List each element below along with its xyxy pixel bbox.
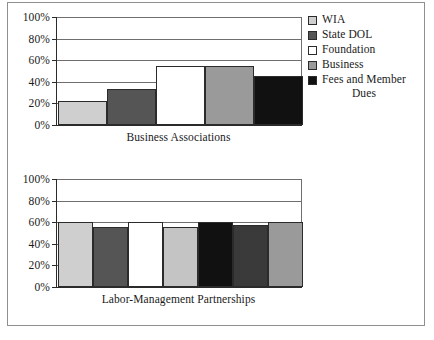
legend-top: WIAState DOLFoundationBusinessFees and M… [308,13,426,102]
y-tick-60% [52,222,57,223]
bar-fee-for-service [93,227,128,287]
y-tick-label-0%: 0% [34,281,50,293]
legend-item-label: Foundation [322,43,375,57]
legend-swatch-icon [308,46,317,55]
y-tick-label-100%: 100% [23,173,50,185]
legend-item-label: State DOL [322,28,372,42]
legend-item: WIA [308,13,426,27]
bar-incumbent-worker [233,225,268,287]
legend-item: Foundation [308,43,426,57]
plot-area-bottom: 0%20%40%60%80%100% [56,179,302,288]
y-tick-40% [52,244,57,245]
y-tick-label-80%: 80% [29,195,50,207]
legend-item: Fees and MemberDues [308,73,426,100]
y-tick-40% [52,82,57,83]
y-tick-label-100%: 100% [23,11,50,23]
y-tick-0% [52,287,57,288]
y-tick-label-60%: 60% [29,216,50,228]
y-tick-label-20%: 20% [29,259,50,271]
y-tick-label-0%: 0% [34,119,50,131]
y-tick-100% [52,17,57,18]
y-tick-60% [52,60,57,61]
y-tick-80% [52,201,57,202]
bar-fees-and-member-dues [254,76,303,125]
legend-swatch-icon [308,61,317,70]
bar-business [128,222,163,287]
legend-swatch-icon [308,31,317,40]
legend-item: Business [308,58,426,72]
bar-series-bottom [58,179,303,287]
y-tick-20% [52,265,57,266]
plot-area-top: 0%20%40%60%80%100% [56,17,302,126]
category-label-top: Business Associations [56,131,301,143]
bar-series-top [58,17,303,125]
y-tick-label-80%: 80% [29,33,50,45]
legend-swatch-icon [308,16,317,25]
category-label-bottom: Labor-Management Partnerships [56,293,301,305]
bar-business [205,66,254,125]
y-tick-20% [52,103,57,104]
y-tick-80% [52,39,57,40]
y-tick-label-60%: 60% [29,54,50,66]
chart-panel-business-associations: 0%20%40%60%80%100% Business Associations… [8,3,426,165]
bar-state-dol [198,222,233,287]
y-tick-label-40%: 40% [29,76,50,88]
y-tick-label-20%: 20% [29,97,50,109]
y-tick-label-40%: 40% [29,238,50,250]
legend-item-label: WIA [322,13,345,27]
bar-state-county-welfare [268,222,303,287]
legend-item-label: Business [322,58,364,72]
bar-state-dol [107,89,156,125]
legend-swatch-icon [308,76,317,85]
bar-wia [58,101,107,125]
legend-item: State DOL [308,28,426,42]
figure-frame: 0%20%40%60%80%100% Business Associations… [7,2,425,326]
bar-wia [58,222,93,287]
legend-item-label-cont: Dues [322,87,406,101]
y-tick-0% [52,125,57,126]
chart-panel-labor-management-partnerships: 0%20%40%60%80%100% Labor-Management Part… [8,165,426,327]
bar-foundation [163,227,198,287]
y-tick-100% [52,179,57,180]
legend-item-label: Fees and MemberDues [322,73,406,100]
bar-foundation [156,66,205,125]
